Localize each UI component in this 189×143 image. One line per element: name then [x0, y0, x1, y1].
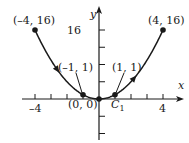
point-marker	[32, 27, 38, 33]
leader-lines	[76, 73, 124, 93]
point-label-4-16: (4, 16)	[148, 14, 185, 27]
y-tick-label-16: 16	[67, 24, 81, 37]
curve-label-sub: 1	[119, 104, 124, 113]
point-label-neg1-1: (–1, 1)	[58, 61, 93, 74]
point-label-0-0: (0, 0)	[68, 98, 98, 111]
leader-line-neg1-1	[76, 73, 82, 93]
y-axis-label: y	[89, 8, 97, 21]
x-tick-label-4: 4	[159, 102, 166, 115]
x-tick-label-neg4: –4	[29, 102, 42, 115]
parabola-diagram: x y –4 4 16 (–4, 16) (–1, 1) (0, 0) (1, …	[0, 0, 189, 143]
point-marker	[112, 92, 118, 98]
point-marker	[160, 27, 166, 33]
point-marker	[80, 92, 86, 98]
curve-label: C1	[111, 98, 125, 113]
point-label-neg4-16: (–4, 16)	[13, 14, 55, 27]
point-label-1-1: (1, 1)	[112, 61, 142, 74]
x-axis-label: x	[178, 79, 185, 92]
